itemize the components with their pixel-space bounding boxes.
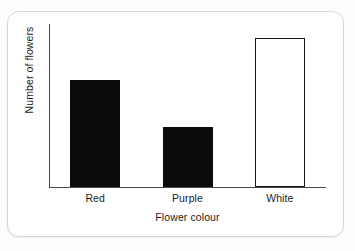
figure-card: RedPurpleWhite Number of flowers Flower … [7,11,344,237]
x-tick-label-red: Red [55,192,135,204]
y-axis-title: Number of flowers [23,5,35,135]
bar-chart-plot-area: RedPurpleWhite Number of flowers Flower … [8,12,345,238]
bar-white [255,38,305,187]
x-axis-title: Flower colour [49,211,326,223]
y-axis-line [49,24,50,188]
x-tick-label-white: White [240,192,320,204]
x-axis-line [49,187,326,188]
x-tick-label-purple: Purple [148,192,228,204]
bar-purple [163,127,213,187]
bar-red [70,80,120,187]
